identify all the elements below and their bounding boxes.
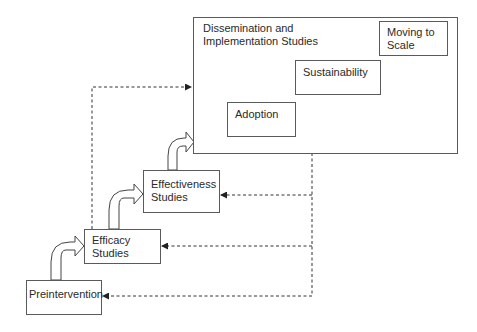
adoption-box: Adoption — [227, 102, 296, 137]
efficacy-box: Efficacy Studies — [84, 229, 161, 264]
sustainability-box: Sustainability — [295, 60, 381, 95]
moving-to-scale-label: Moving to Scale — [387, 26, 435, 52]
effectiveness-box: Effectiveness Studies — [143, 170, 220, 213]
efficacy-label: Efficacy Studies — [92, 234, 130, 260]
adoption-label: Adoption — [235, 108, 278, 121]
preintervention-label: Preintervention — [29, 288, 103, 301]
curved-arrow-preintervention-to-efficacy — [51, 236, 84, 280]
effectiveness-label: Effectiveness Studies — [151, 178, 216, 204]
preintervention-box: Preintervention — [26, 280, 102, 315]
dissemination-title: Dissemination and Implementation Studies — [203, 22, 318, 48]
sustainability-label: Sustainability — [303, 66, 368, 79]
curved-arrow-efficacy-to-effectiveness — [109, 184, 143, 229]
curved-arrow-effectiveness-to-dissemination — [168, 132, 194, 170]
moving-to-scale-box: Moving to Scale — [379, 21, 448, 56]
